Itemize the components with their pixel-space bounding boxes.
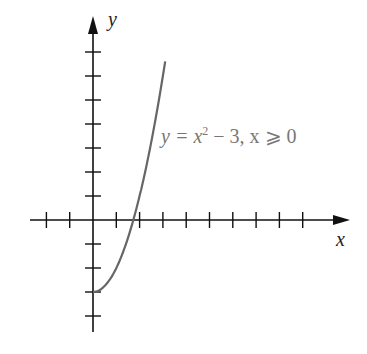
curve-line bbox=[93, 61, 165, 292]
chart: y x y = x2 − 3, x ⩾ 0 bbox=[0, 0, 367, 354]
plot-area bbox=[0, 0, 367, 354]
equation-annotation: y = x2 − 3, x ⩾ 0 bbox=[161, 124, 297, 148]
y-axis-label: y bbox=[108, 8, 117, 31]
y-axis-arrow-icon bbox=[88, 16, 98, 34]
x-axis-arrow-icon bbox=[333, 215, 350, 225]
eq-tail: − 3, x ⩾ 0 bbox=[208, 125, 296, 147]
x-axis-label: x bbox=[336, 228, 345, 251]
eq-y: y bbox=[161, 125, 170, 147]
eq-mid: = x bbox=[170, 125, 202, 147]
